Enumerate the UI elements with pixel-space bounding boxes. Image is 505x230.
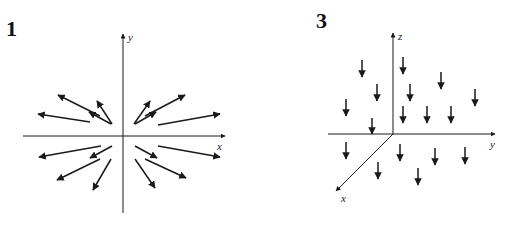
- vector-arrow: [135, 159, 155, 188]
- panel-1-axes: [23, 34, 225, 213]
- vector-field-diagrams: x y z y x: [0, 0, 505, 230]
- vector-arrow: [38, 114, 90, 122]
- z-axis-label: z: [397, 30, 403, 42]
- vector-arrow: [39, 146, 101, 157]
- vector-arrow: [158, 146, 220, 157]
- panel-1-diagram: x y: [23, 31, 225, 213]
- panel-3-axes: [328, 33, 495, 191]
- vector-arrow: [145, 159, 186, 178]
- vector-arrow: [58, 95, 100, 116]
- y-axis-label: y: [127, 31, 133, 43]
- panel-3-diagram: z y x: [328, 30, 495, 204]
- x-axis: [336, 134, 393, 191]
- y-axis-label-3d: y: [489, 138, 495, 150]
- panel-3-arrows: [346, 57, 475, 185]
- x-axis-label-3d: x: [340, 192, 346, 204]
- vector-arrow: [135, 146, 157, 158]
- panel-1-arrows: [38, 95, 220, 190]
- vector-arrow: [93, 159, 111, 190]
- vector-arrow: [145, 95, 185, 116]
- x-axis-label: x: [216, 140, 222, 152]
- vector-arrow: [158, 114, 220, 125]
- vector-arrow: [57, 159, 100, 180]
